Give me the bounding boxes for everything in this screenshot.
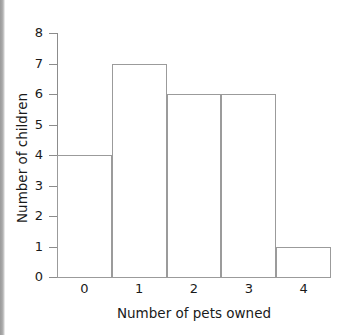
x-axis-tick-label: 2	[167, 282, 222, 295]
y-axis-tick	[49, 186, 57, 187]
x-axis-tick-label: 4	[276, 282, 331, 295]
y-axis-tick	[49, 155, 57, 156]
y-axis-tick	[49, 216, 57, 217]
bar	[112, 64, 167, 279]
x-axis-tick-label: 0	[57, 282, 112, 295]
x-axis-tick-label: 1	[112, 282, 167, 295]
x-axis-title: Number of pets owned	[57, 305, 331, 321]
y-axis-tick-label: 8	[21, 26, 43, 39]
bar	[57, 155, 112, 278]
histogram-plot-area: 012345678 01234 Number of pets owned Num…	[0, 0, 346, 335]
y-axis-tick	[49, 125, 57, 126]
chart-page: 012345678 01234 Number of pets owned Num…	[0, 0, 346, 335]
y-axis-tick	[49, 33, 57, 34]
y-axis-tick	[49, 247, 57, 248]
y-axis-tick-label: 0	[21, 270, 43, 283]
bar	[221, 94, 276, 278]
bar	[276, 247, 331, 279]
y-axis-tick	[49, 94, 57, 95]
y-axis-tick	[49, 64, 57, 65]
y-axis-title: Number of children	[14, 48, 30, 268]
y-axis-tick	[49, 277, 57, 278]
x-axis-tick-label: 3	[221, 282, 276, 295]
bar	[167, 94, 222, 278]
